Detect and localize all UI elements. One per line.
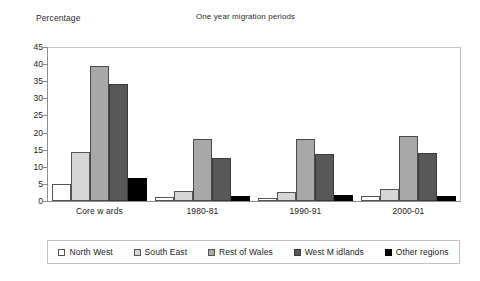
legend-label: South East [145, 247, 188, 257]
y-axis-tick-mark [43, 47, 47, 48]
legend-label: Other regions [396, 247, 449, 257]
y-axis-tick-mark [43, 167, 47, 168]
y-axis-tick-mark [43, 64, 47, 65]
bar[interactable] [315, 154, 334, 201]
bar[interactable] [296, 139, 315, 201]
y-axis-tick-mark [43, 184, 47, 185]
y-axis-tick-mark [43, 115, 47, 116]
bar[interactable] [52, 184, 71, 201]
bar[interactable] [174, 191, 193, 201]
bar-group [52, 47, 147, 201]
bar-group [258, 47, 353, 201]
chart-title: One year migration periods [196, 12, 295, 21]
legend-item[interactable]: South East [134, 247, 188, 257]
y-axis-tick-mark [43, 201, 47, 202]
bar[interactable] [399, 136, 418, 201]
legend-item[interactable]: West M idlands [294, 247, 364, 257]
legend-item[interactable]: North West [58, 247, 112, 257]
bar-group [361, 47, 456, 201]
bar[interactable] [109, 84, 128, 201]
bar[interactable] [212, 158, 231, 201]
bar[interactable] [231, 196, 250, 201]
bar[interactable] [155, 197, 174, 201]
bar-series-layer [48, 47, 460, 201]
legend-item[interactable]: Rest of Wales [208, 247, 273, 257]
legend-swatch-icon [134, 249, 141, 256]
bar[interactable] [90, 66, 109, 201]
x-axis-label: 1980-81 [151, 206, 254, 216]
y-axis-tick-mark [43, 150, 47, 151]
legend-label: North West [69, 247, 112, 257]
legend-label: Rest of Wales [219, 247, 273, 257]
legend-swatch-icon [208, 249, 215, 256]
bar[interactable] [71, 152, 90, 201]
legend-swatch-icon [58, 249, 65, 256]
chart-screenshot: Percentage One year migration periods 05… [0, 0, 480, 281]
legend-swatch-icon [385, 249, 392, 256]
bar[interactable] [334, 195, 353, 201]
y-axis-tick-mark [43, 133, 47, 134]
chart-legend: North WestSouth EastRest of WalesWest M … [47, 240, 460, 264]
bar[interactable] [193, 139, 212, 201]
x-axis-label: 2000-01 [357, 206, 460, 216]
x-axis-label: 1990-91 [254, 206, 357, 216]
y-axis-tick-mark [43, 98, 47, 99]
legend-label: West M idlands [305, 247, 364, 257]
bar[interactable] [437, 196, 456, 201]
bar[interactable] [277, 192, 296, 201]
bar[interactable] [380, 189, 399, 201]
legend-swatch-icon [294, 249, 301, 256]
x-axis-line [47, 201, 461, 202]
bar[interactable] [418, 153, 437, 201]
y-axis-caption: Percentage [36, 13, 80, 23]
bar-group [155, 47, 250, 201]
bar[interactable] [361, 196, 380, 201]
bar[interactable] [258, 198, 277, 201]
legend-item[interactable]: Other regions [385, 247, 449, 257]
bar[interactable] [128, 178, 147, 201]
y-axis-tick-mark [43, 81, 47, 82]
x-axis-label: Core w ards [48, 206, 151, 216]
